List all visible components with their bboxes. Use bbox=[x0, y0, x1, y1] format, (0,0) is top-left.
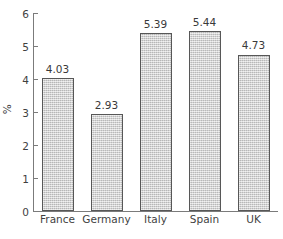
bar-uk: 4.73 bbox=[238, 55, 270, 211]
bar-rect bbox=[140, 33, 172, 211]
y-axis-title: % bbox=[2, 104, 13, 114]
bar-italy: 5.39 bbox=[140, 33, 172, 211]
bar-value-label: 5.39 bbox=[144, 19, 167, 30]
y-tick-label: 1 bbox=[22, 173, 29, 184]
bar-rect bbox=[42, 78, 74, 211]
y-tick-label: 0 bbox=[22, 206, 29, 217]
bar-value-label: 4.03 bbox=[46, 64, 69, 75]
bar-germany: 2.93 bbox=[91, 114, 123, 211]
bar-value-label: 4.73 bbox=[242, 40, 265, 51]
category-label-france: France bbox=[40, 214, 75, 225]
category-label-germany: Germany bbox=[82, 214, 130, 225]
y-tick-label: 4 bbox=[22, 74, 29, 85]
bar-rect bbox=[238, 55, 270, 211]
x-axis-line bbox=[33, 211, 278, 212]
y-tick-label: 6 bbox=[22, 8, 29, 19]
y-tick-mark bbox=[33, 211, 38, 212]
y-tick-label: 2 bbox=[22, 140, 29, 151]
bar-rect bbox=[189, 31, 221, 211]
y-tick-label: 5 bbox=[22, 41, 29, 52]
bar-rect bbox=[91, 114, 123, 211]
bar-spain: 5.44 bbox=[189, 31, 221, 211]
category-label-uk: UK bbox=[246, 214, 261, 225]
y-tick-label: 3 bbox=[22, 107, 29, 118]
category-label-italy: Italy bbox=[144, 214, 167, 225]
bar-value-label: 5.44 bbox=[193, 17, 216, 28]
plot-area: 4.032.935.395.444.73 bbox=[33, 13, 278, 211]
bar-value-label: 2.93 bbox=[95, 100, 118, 111]
bar-chart: % 0123456 4.032.935.395.444.73 FranceGer… bbox=[0, 0, 283, 239]
category-label-spain: Spain bbox=[190, 214, 219, 225]
bar-france: 4.03 bbox=[42, 78, 74, 211]
y-tick-0: 0 bbox=[33, 211, 38, 212]
